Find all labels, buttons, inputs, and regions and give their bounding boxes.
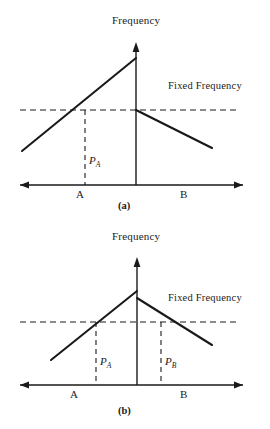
panel-caption-a: (a) [118,201,130,212]
ascending-line-a [22,58,136,151]
pb-label-b: PB [165,356,176,370]
pa-base-a: P [89,154,96,166]
pa-label-a: PA [89,155,100,169]
x-axis-b [20,382,243,389]
region-label-a-right: B [180,189,187,200]
descending-line-a [136,110,212,148]
region-label-b-right: B [180,389,187,400]
region-label-b-left: A [70,389,78,400]
x-axis-left-arrow-icon [20,182,29,189]
region-label-a-left: A [76,189,84,200]
panel-caption-b: (b) [118,406,131,417]
pa-label-b: PA [100,356,111,370]
fixed-frequency-label-b: Fixed Frequency [168,293,242,304]
pa-sub-b: A [107,361,112,370]
y-axis-title-a: Frequency [112,15,160,26]
pa-base-b: P [100,355,107,367]
x-axis-right-arrow-icon [234,182,243,189]
pb-base-b: P [165,355,172,367]
x-axis-a [20,182,243,189]
panel-a: Frequency Fixed Frequency PA A B (a) [0,0,270,215]
ascending-line-b [51,291,137,360]
y-axis-up-arrow-icon [134,257,141,267]
y-axis-up-arrow-icon [133,42,140,52]
y-axis-a [133,42,140,185]
x-axis-right-arrow-icon [234,382,243,389]
figure-root: Frequency Fixed Frequency PA A B (a) [0,0,270,429]
fixed-frequency-label-a: Fixed Frequency [168,81,242,92]
pa-sub-a: A [96,160,101,169]
x-axis-left-arrow-icon [20,382,29,389]
panel-a-plot [0,0,270,215]
panel-b-plot [0,215,270,429]
pb-sub-b: B [172,361,177,370]
y-axis-title-b: Frequency [112,231,160,242]
panel-b: Frequency Fixed Frequency PA PB A B (b) [0,215,270,429]
y-axis-b [134,257,141,385]
